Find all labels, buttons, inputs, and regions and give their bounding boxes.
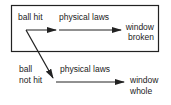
edge-label-top: physical laws	[59, 12, 109, 22]
node-window-broken-1: window	[122, 22, 154, 32]
edge-label-bottom: physical laws	[60, 64, 110, 74]
node-window-whole-2: whole	[130, 86, 152, 96]
node-ball-hit: ball hit	[18, 12, 43, 22]
node-window-whole-1: window	[130, 75, 158, 85]
node-ball-not-hit-2: not hit	[19, 75, 42, 85]
node-window-broken-2: broken	[122, 32, 154, 42]
node-ball-not-hit-1: ball	[19, 64, 32, 74]
